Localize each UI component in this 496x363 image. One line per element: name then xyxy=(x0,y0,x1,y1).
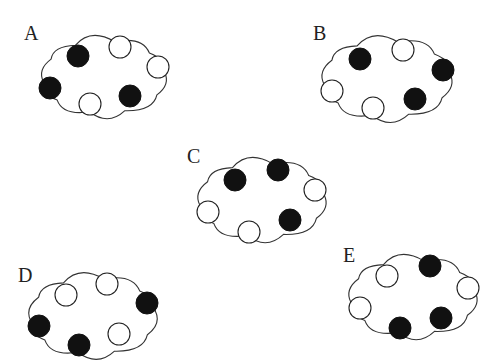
cloud-label: C xyxy=(187,145,200,167)
filled-circle xyxy=(419,255,441,277)
open-circle xyxy=(392,39,414,61)
open-circle xyxy=(376,265,398,287)
cloud-a: A xyxy=(24,22,169,119)
filled-circle xyxy=(389,317,411,339)
filled-circle xyxy=(67,45,89,67)
filled-circle xyxy=(279,209,301,231)
open-circle xyxy=(304,179,326,201)
filled-circle xyxy=(119,85,141,107)
open-circle xyxy=(108,323,130,345)
cloud-c: C xyxy=(187,145,326,243)
cloud-outline xyxy=(198,157,326,242)
open-circle xyxy=(197,201,219,223)
open-circle xyxy=(96,273,118,295)
open-circle xyxy=(55,284,77,306)
open-circle xyxy=(457,277,479,299)
cloud-outline xyxy=(322,36,452,123)
open-circle xyxy=(147,56,169,78)
cloud-label: D xyxy=(18,264,32,286)
cloud-label: A xyxy=(24,22,39,44)
cloud-outline xyxy=(349,254,477,339)
filled-circle xyxy=(432,59,454,81)
figure-canvas: ABCDE xyxy=(0,0,496,363)
filled-circle xyxy=(28,315,50,337)
open-circle xyxy=(362,97,384,119)
filled-circle xyxy=(349,48,371,70)
open-circle xyxy=(238,221,260,243)
cloud-label: B xyxy=(313,22,326,44)
filled-circle xyxy=(267,159,289,181)
filled-circle xyxy=(39,77,61,99)
cloud-b: B xyxy=(313,22,454,123)
filled-circle xyxy=(68,334,90,356)
open-circle xyxy=(109,36,131,58)
open-circle xyxy=(79,93,101,115)
cloud-e: E xyxy=(343,244,479,340)
filled-circle xyxy=(430,307,452,329)
filled-circle xyxy=(136,292,158,314)
open-circle xyxy=(321,80,343,102)
filled-circle xyxy=(224,169,246,191)
open-circle xyxy=(349,297,371,319)
cloud-outline xyxy=(29,273,158,360)
cloud-d: D xyxy=(18,264,158,359)
cloud-outline xyxy=(42,35,167,118)
cloud-label: E xyxy=(343,244,355,266)
filled-circle xyxy=(404,88,426,110)
